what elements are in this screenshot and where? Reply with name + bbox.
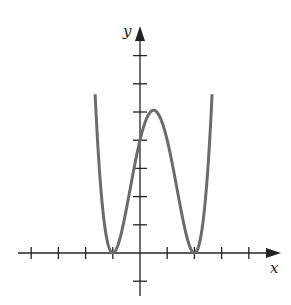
y-axis-arrow-icon	[135, 26, 145, 41]
x-axis-arrow-icon	[266, 248, 281, 258]
chart: x y	[0, 0, 291, 305]
function-curve	[95, 94, 212, 253]
y-axis-label: y	[122, 22, 132, 40]
axes: x y	[18, 22, 281, 296]
x-axis-label: x	[270, 259, 279, 277]
